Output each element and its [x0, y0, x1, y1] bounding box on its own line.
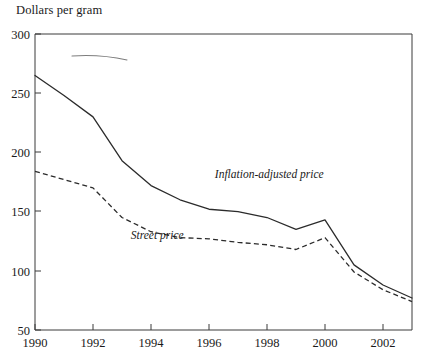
x-tick-label: 1990	[23, 336, 48, 350]
x-axis-ticks	[35, 324, 383, 330]
chart-page: Dollars per gram 300 250 200 150 100 50	[0, 0, 433, 360]
series-line-inflation-adjusted-price	[35, 75, 412, 298]
x-tick-label: 1998	[255, 336, 280, 350]
x-tick-label: 1992	[81, 336, 106, 350]
plot-frame	[35, 34, 412, 330]
y-tick-label: 100	[11, 265, 30, 279]
y-tick-label: 300	[11, 28, 30, 42]
x-tick-label: 1996	[197, 336, 222, 350]
y-tick-label: 150	[11, 205, 30, 219]
y-axis-labels: 300 250 200 150 100 50	[11, 28, 30, 338]
x-tick-label: 2000	[313, 336, 338, 350]
y-tick-label: 200	[11, 146, 30, 160]
x-axis-labels: 1990 1992 1994 1996 1998 2000 2002	[23, 336, 396, 350]
x-tick-label: 1994	[139, 336, 165, 350]
series-label-inflation-adjusted-price: Inflation-adjusted price	[214, 168, 324, 181]
y-tick-label: 250	[11, 87, 30, 101]
series-line-street-price	[35, 171, 412, 301]
line-chart: 300 250 200 150 100 50 1990 1992 1994 19…	[0, 0, 433, 360]
x-tick-label: 2002	[371, 336, 396, 350]
scan-artifact-mark	[72, 56, 127, 61]
series-label-street-price: Street price	[131, 229, 184, 242]
